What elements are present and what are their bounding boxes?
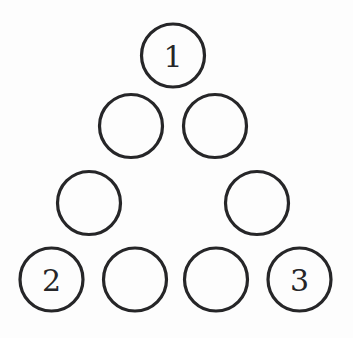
circle-node[interactable] <box>226 172 289 235</box>
circle-outline[interactable] <box>100 95 163 158</box>
circle-node[interactable]: 3 <box>268 248 331 311</box>
figure-canvas: 123 <box>0 0 353 338</box>
circle-node[interactable] <box>100 95 163 158</box>
circle-node[interactable] <box>185 248 248 311</box>
circle-label: 2 <box>42 263 61 298</box>
circle-outline[interactable] <box>185 248 248 311</box>
circle-label: 3 <box>290 263 309 298</box>
circle-node[interactable] <box>184 95 247 158</box>
triangle-circles-figure: 123 <box>0 0 353 338</box>
circle-node[interactable] <box>58 172 121 235</box>
circle-node[interactable] <box>104 248 167 311</box>
circle-outline[interactable] <box>184 95 247 158</box>
circle-node[interactable]: 1 <box>142 24 205 87</box>
circle-outline[interactable] <box>58 172 121 235</box>
circle-outline[interactable] <box>104 248 167 311</box>
circle-outline[interactable] <box>226 172 289 235</box>
circle-node[interactable]: 2 <box>20 248 83 311</box>
circle-label: 1 <box>163 39 182 74</box>
